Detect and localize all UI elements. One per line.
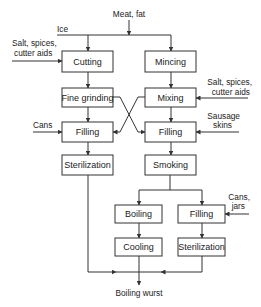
input-sausage-line2: skins xyxy=(213,120,232,130)
step-filling-bottom-label: Filling xyxy=(190,209,214,219)
input-salt-right-line1: Salt, spices, xyxy=(207,77,252,87)
step-filling-right-label: Filling xyxy=(159,127,183,137)
step-sterilization-bottom-label: Sterilization xyxy=(178,242,225,252)
input-salt-left-line2: cutter aids xyxy=(14,48,52,58)
step-mixing-label: Mixing xyxy=(157,93,183,103)
input-cans-jars-line2: jars xyxy=(231,201,245,211)
input-cans: Cans xyxy=(33,120,52,130)
step-boiling-label: Boiling xyxy=(125,209,152,219)
input-meat-fat: Meat, fat xyxy=(113,9,146,19)
input-salt-right-line2: cutter aids xyxy=(212,87,250,97)
step-mincing-label: Mincing xyxy=(155,57,186,67)
output-boiling-wurst: Boiling wurst xyxy=(115,288,163,298)
step-smoking-label: Smoking xyxy=(153,160,188,170)
step-filling-left-label: Filling xyxy=(76,127,100,137)
step-fine-grinding-label: Fine grinding xyxy=(61,93,113,103)
step-cutting-label: Cutting xyxy=(73,57,102,67)
input-ice: Ice xyxy=(57,24,68,34)
step-cooling-label: Cooling xyxy=(123,242,154,252)
input-salt-left-line1: Salt, spices, xyxy=(12,38,57,48)
step-sterilization-left-label: Sterilization xyxy=(64,160,111,170)
flowchart: Meat, fat Ice Salt, spices, cutter aids … xyxy=(0,0,261,307)
arrow-cross-mixing-to-left-filling xyxy=(113,97,145,132)
